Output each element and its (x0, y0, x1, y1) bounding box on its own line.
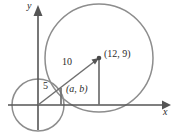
geometry-figure: y x 10 5 (a, b) (12, 9) (0, 0, 176, 134)
y-axis-arrowhead (34, 5, 43, 16)
figure-canvas (0, 0, 176, 134)
inner-radius-label: 5 (43, 81, 48, 91)
center-point-dot (97, 56, 102, 61)
x-axis-label: x (163, 107, 167, 117)
outer-radius-label: 10 (62, 57, 72, 67)
center-point-label: (12, 9) (104, 49, 131, 59)
tangent-point-label: (a, b) (66, 84, 88, 94)
y-axis-label: y (27, 1, 31, 11)
